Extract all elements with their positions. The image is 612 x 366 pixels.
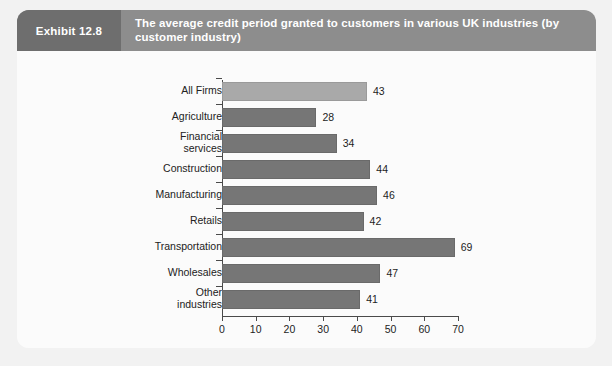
bar-value-label: 44 (376, 163, 388, 175)
x-axis-tick (357, 316, 358, 321)
x-axis-tick-label: 10 (241, 323, 271, 335)
y-axis-tick (216, 156, 222, 157)
bar-value-label: 46 (383, 189, 395, 201)
bar (222, 264, 380, 283)
chart-plot-area: All FirmsAgricultureFinancial servicesCo… (17, 51, 596, 348)
x-axis-tick (222, 316, 223, 321)
x-axis-tick (323, 316, 324, 321)
x-axis-tick-label: 0 (207, 323, 237, 335)
bar-value-label: 69 (461, 241, 473, 253)
bar-value-label: 42 (370, 215, 382, 227)
category-label: Retails (82, 215, 222, 227)
bar-row: 46 (222, 186, 518, 205)
x-axis-tick (391, 316, 392, 321)
y-axis-tick (216, 130, 222, 131)
x-axis-tick-label: 30 (308, 323, 338, 335)
horizontal-bar-chart: All FirmsAgricultureFinancial servicesCo… (17, 51, 596, 348)
bar-value-label: 43 (373, 85, 385, 97)
bar-row: 41 (222, 290, 518, 309)
exhibit-card: Exhibit 12.8 The average credit period g… (17, 10, 596, 348)
x-axis-tick (458, 316, 459, 321)
bar-value-label: 34 (343, 137, 355, 149)
bar-value-label: 28 (322, 111, 334, 123)
x-axis-tick-label: 50 (376, 323, 406, 335)
y-axis-tick (216, 234, 222, 235)
x-axis-tick (289, 316, 290, 321)
category-label: Construction (82, 163, 222, 175)
category-label: Manufacturing (82, 189, 222, 201)
bar (222, 212, 364, 231)
exhibit-title: The average credit period granted to cus… (121, 10, 596, 51)
x-axis-tick-label: 60 (409, 323, 439, 335)
bar-row: 69 (222, 238, 518, 257)
y-axis-tick (216, 182, 222, 183)
bar-value-label: 41 (366, 293, 378, 305)
bar-row: 43 (222, 82, 518, 101)
category-label: All Firms (82, 85, 222, 97)
y-axis-tick (216, 208, 222, 209)
y-axis-tick (216, 286, 222, 287)
x-axis-tick (256, 316, 257, 321)
y-axis-tick (216, 104, 222, 105)
bar (222, 238, 455, 257)
category-label: Financial services (82, 131, 222, 154)
y-axis-tick (216, 78, 222, 79)
bar (222, 160, 370, 179)
exhibit-header: Exhibit 12.8 The average credit period g… (17, 10, 596, 51)
x-axis-tick (424, 316, 425, 321)
category-label: Wholesales (82, 267, 222, 279)
y-axis-tick (216, 260, 222, 261)
bar-row: 47 (222, 264, 518, 283)
x-axis-tick-label: 70 (443, 323, 473, 335)
exhibit-number-label: Exhibit 12.8 (36, 25, 102, 37)
bar (222, 290, 360, 309)
bar (222, 134, 337, 153)
x-axis-tick-label: 40 (342, 323, 372, 335)
category-label: Transportation (82, 241, 222, 253)
category-label: Other industries (82, 287, 222, 310)
bar-row: 42 (222, 212, 518, 231)
bar-row: 28 (222, 108, 518, 127)
exhibit-number-tab: Exhibit 12.8 (17, 10, 121, 51)
bar-row: 34 (222, 134, 518, 153)
bar (222, 82, 367, 101)
bar-value-label: 47 (386, 267, 398, 279)
bar (222, 186, 377, 205)
category-label: Agriculture (82, 111, 222, 123)
bar (222, 108, 316, 127)
bar-row: 44 (222, 160, 518, 179)
x-axis-tick-label: 20 (274, 323, 304, 335)
